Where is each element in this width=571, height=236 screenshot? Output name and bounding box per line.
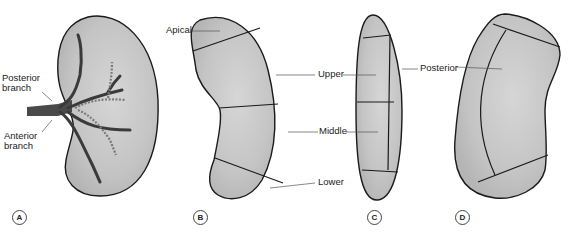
panel-letter-d: D	[455, 210, 470, 225]
panel-b-kidney	[190, 17, 318, 198]
panel-letter-a: A	[12, 210, 27, 225]
kidney-illustrations	[0, 0, 571, 236]
label-posterior: Posterior	[420, 63, 458, 73]
label-lower: Lower	[318, 177, 344, 187]
panel-a-kidney	[27, 16, 158, 196]
label-middle: Middle	[319, 126, 347, 136]
panel-d-kidney	[455, 14, 560, 198]
label-posterior-branch: Posterior branch	[2, 73, 40, 93]
label-upper: Upper	[318, 69, 344, 79]
kidney-segments-figure: Posterior branch Anterior branch Apical …	[0, 0, 571, 236]
label-apical: Apical	[166, 25, 192, 35]
panel-letter-c: C	[367, 210, 382, 225]
panel-c-kidney	[343, 15, 418, 200]
panel-letter-b: B	[193, 210, 208, 225]
label-anterior-branch: Anterior branch	[4, 131, 37, 151]
